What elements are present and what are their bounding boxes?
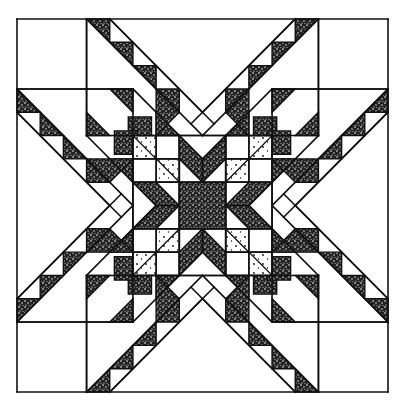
quilt-artwork [17, 19, 388, 392]
quilt-block-diagram [0, 0, 404, 416]
